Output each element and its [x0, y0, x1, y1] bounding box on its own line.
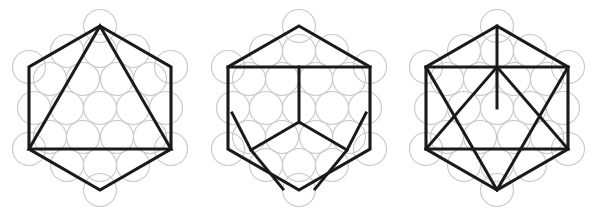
panel-3-svg	[397, 0, 598, 217]
downward-triangle-left-panel-3	[426, 67, 497, 190]
y-arm-right-panel-2	[299, 122, 347, 150]
lattice-circles-panel-1	[13, 10, 188, 207]
panel-1-svg	[0, 0, 200, 217]
panel-2-hexagon-with-y-star-partition	[199, 0, 399, 217]
panel-2-svg	[199, 0, 399, 217]
figure-root	[0, 0, 598, 217]
diagonal-lower-right-panel-2	[315, 150, 347, 189]
panel-1-hexagon-with-inscribed-triangle	[0, 0, 200, 217]
y-arm-left-panel-2	[251, 122, 299, 150]
diagonal-lower-left-panel-2	[251, 150, 283, 189]
inscribed-triangle-panel-1	[29, 26, 171, 149]
panel-3-hexagon-with-hexagram-chords	[397, 0, 598, 217]
downward-triangle-right-panel-3	[497, 67, 568, 190]
y-star-partition-panel-2	[228, 67, 370, 189]
